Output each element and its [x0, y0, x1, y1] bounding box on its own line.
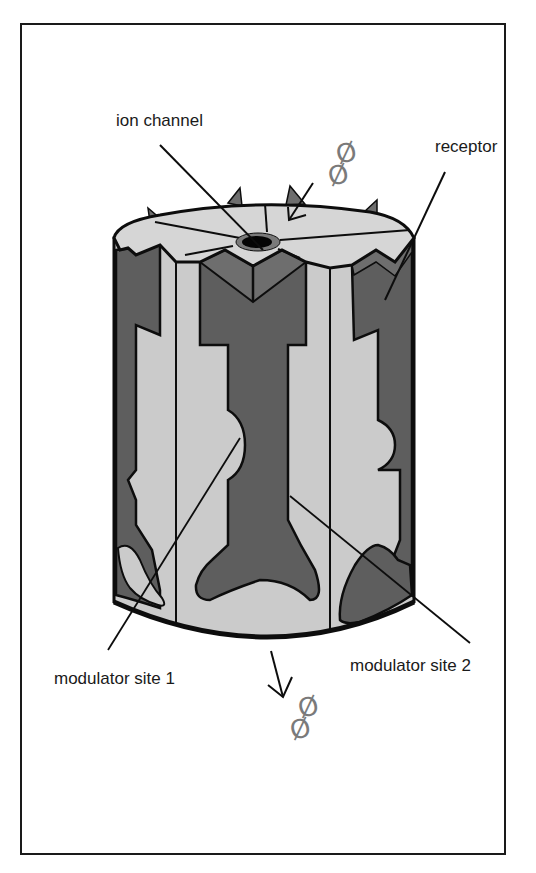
label-modulator-site-2: modulator site 2 — [350, 657, 471, 674]
label-ion-channel: ion channel — [116, 112, 203, 129]
ion-channel-pore — [242, 236, 272, 248]
receptor-cylinder — [114, 238, 414, 637]
receptor-diagram — [0, 0, 536, 873]
label-modulator-site-1: modulator site 1 — [54, 670, 175, 687]
label-receptor: receptor — [435, 138, 497, 155]
